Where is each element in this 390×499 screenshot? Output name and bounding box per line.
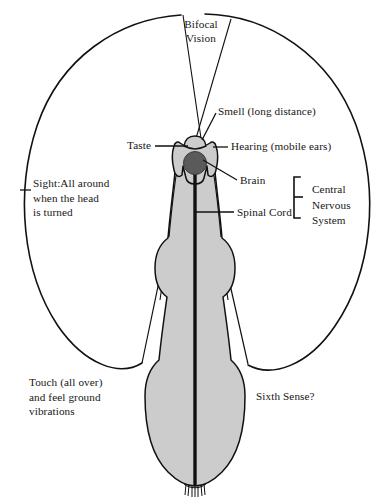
- label-bifocal-vision: Bifocal Vision: [177, 18, 225, 45]
- label-brain: Brain: [240, 174, 265, 187]
- label-smell: Smell (long distance): [218, 105, 316, 118]
- label-touch: Touch (all over) and feel ground vibrati…: [29, 375, 103, 419]
- smell-leader-line: [202, 113, 216, 140]
- diagram-canvas: [0, 0, 390, 499]
- label-sight: Sight:All around when the head is turned: [33, 176, 110, 220]
- central-nervous-system-bracket: [294, 177, 303, 218]
- label-hearing: Hearing (mobile ears): [231, 140, 331, 153]
- sensory-diagram-figure: Bifocal Vision Smell (long distance) Tas…: [0, 0, 390, 499]
- label-spinal-cord: Spinal Cord: [237, 206, 292, 219]
- label-sixth-sense: Sixth Sense?: [256, 390, 315, 403]
- label-taste: Taste: [127, 139, 151, 152]
- label-central-nervous-system: Central Nervous System: [312, 182, 351, 229]
- brain-circle: [184, 152, 207, 175]
